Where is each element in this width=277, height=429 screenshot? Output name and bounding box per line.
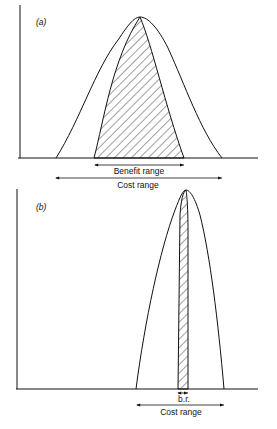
- panel-a-label: (a): [36, 17, 47, 27]
- panel-b: (b) b.r. Cost range: [16, 189, 258, 417]
- panel-a: (a) Benefit range Cost range: [18, 5, 258, 190]
- panel-b-cost-range-label: Cost range: [160, 407, 202, 417]
- panel-b-benefit-strip: [178, 190, 188, 389]
- panel-b-benefit-range-label: b.r.: [178, 394, 190, 404]
- panel-a-cost-range-label: Cost range: [117, 180, 159, 190]
- panel-b-label: (b): [36, 202, 47, 212]
- panel-a-benefit-range-label: Benefit range: [114, 166, 165, 176]
- panel-a-benefit-curve: [94, 17, 184, 158]
- figure: (a) Benefit range Cost range (b) b.r. Co…: [0, 0, 277, 429]
